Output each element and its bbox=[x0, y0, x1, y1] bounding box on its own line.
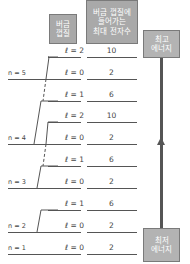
max-electrons-header-line1: 버금 껍질에 bbox=[93, 8, 130, 18]
row-underline bbox=[87, 188, 137, 189]
row-underline bbox=[87, 166, 137, 167]
max-electrons-header-line3: 최대 전자수 bbox=[93, 27, 130, 37]
row-underline bbox=[87, 144, 137, 145]
highest-energy-label: 최고 에너지 bbox=[143, 30, 180, 58]
row-underline bbox=[48, 122, 81, 123]
shell-line bbox=[8, 254, 48, 255]
subshell-header: 버금 껍질 bbox=[49, 14, 77, 44]
shell-label: n = 2 bbox=[8, 222, 26, 230]
row-underline bbox=[87, 79, 137, 80]
row-underline bbox=[87, 122, 137, 123]
row-max: 2 bbox=[86, 133, 137, 142]
row-l: ℓ = 0 bbox=[60, 177, 84, 186]
lowest-energy-line1: 최저 bbox=[151, 236, 172, 246]
lowest-energy-label: 최저 에너지 bbox=[143, 228, 180, 262]
shell-label: n = 4 bbox=[8, 134, 26, 142]
row-underline bbox=[87, 232, 137, 233]
row-max: 6 bbox=[86, 199, 137, 208]
row-max: 6 bbox=[86, 155, 137, 164]
highest-energy-line1: 최고 bbox=[151, 35, 172, 45]
row-underline bbox=[48, 166, 81, 167]
row-l: ℓ = 0 bbox=[60, 243, 84, 252]
row-l: ℓ = 0 bbox=[60, 68, 84, 77]
shell-line bbox=[8, 79, 48, 80]
max-electrons-header-line2: 들어가는 bbox=[93, 17, 130, 27]
row-l: ℓ = 2 bbox=[60, 111, 84, 120]
subshell-header-line2: 껍질 bbox=[56, 29, 70, 39]
shell-line bbox=[8, 144, 48, 145]
row-l: ℓ = 1 bbox=[60, 155, 84, 164]
highest-energy-line2: 에너지 bbox=[151, 44, 172, 54]
row-underline bbox=[87, 101, 137, 102]
row-underline bbox=[48, 79, 81, 80]
row-underline bbox=[48, 144, 81, 145]
lowest-energy-line2: 에너지 bbox=[151, 245, 172, 255]
shell-line bbox=[8, 188, 48, 189]
row-underline bbox=[48, 101, 81, 102]
shell-label: n = 1 bbox=[8, 244, 26, 252]
shell-label: n = 3 bbox=[8, 178, 26, 186]
row-l: ℓ = 1 bbox=[60, 90, 84, 99]
row-l: ℓ = 0 bbox=[60, 221, 84, 230]
row-max: 6 bbox=[86, 90, 137, 99]
row-underline bbox=[48, 210, 81, 211]
row-underline bbox=[87, 210, 137, 211]
row-max: 2 bbox=[86, 221, 137, 230]
row-underline bbox=[48, 232, 81, 233]
row-max: 2 bbox=[86, 177, 137, 186]
row-max: 10 bbox=[86, 111, 137, 120]
row-underline bbox=[87, 57, 137, 58]
subshell-header-line1: 버금 bbox=[56, 20, 70, 30]
row-underline bbox=[48, 188, 81, 189]
max-electrons-header: 버금 껍질에 들어가는 최대 전자수 bbox=[86, 0, 138, 44]
row-underline bbox=[48, 254, 81, 255]
row-l: ℓ = 0 bbox=[60, 133, 84, 142]
row-underline bbox=[48, 57, 81, 58]
shell-label: n = 5 bbox=[8, 69, 26, 77]
shell-line bbox=[8, 232, 48, 233]
row-l: ℓ = 1 bbox=[60, 199, 84, 208]
row-max: 2 bbox=[86, 68, 137, 77]
row-max: 10 bbox=[86, 46, 137, 55]
energy-arrow-head-icon bbox=[157, 137, 165, 145]
row-l: ℓ = 2 bbox=[60, 46, 84, 55]
row-max: 2 bbox=[86, 243, 137, 252]
row-underline bbox=[87, 254, 137, 255]
